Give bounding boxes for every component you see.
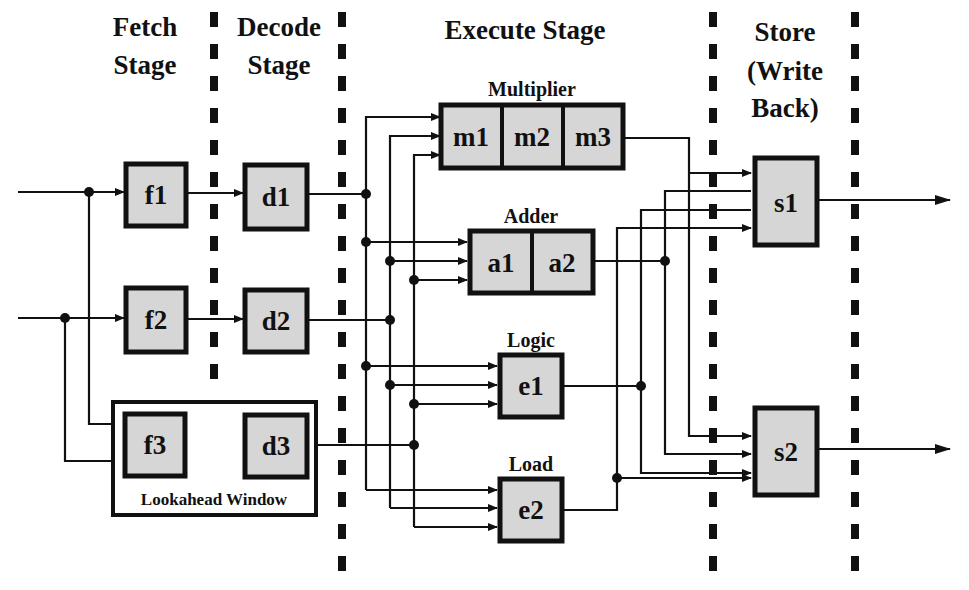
store-stage-title-1: Store [755, 17, 816, 47]
junction-dot [361, 361, 371, 371]
junction-dot [409, 440, 419, 450]
multiplier-stage-m3: m3 [575, 122, 611, 152]
junction-dot [84, 187, 94, 197]
adder-label: Adder [504, 205, 559, 227]
load-label: Load [509, 453, 553, 475]
store-stage-title-3: Back) [751, 93, 819, 123]
multiplier-stage-m1: m1 [453, 122, 489, 152]
a2-bus-vertical [665, 191, 751, 454]
fetch-box-f1-label: f1 [145, 180, 168, 210]
load-stage-e2: e2 [518, 495, 543, 525]
decode-box-d3-label: d3 [262, 431, 291, 461]
multiplier-label: Multiplier [488, 78, 576, 101]
decode-box-d2-label: d2 [262, 306, 291, 336]
fetch-box-f3-label: f3 [144, 430, 167, 460]
junction-dot [636, 381, 646, 391]
pipeline-diagram: Fetch Stage Decode Stage Execute Stage S… [0, 0, 969, 590]
junction-dot [361, 189, 371, 199]
fetch-stage-title-2: Stage [114, 50, 177, 80]
junction-dot [361, 237, 371, 247]
adder-stage-a1: a1 [488, 248, 515, 278]
execute-stage-title: Execute Stage [444, 15, 605, 45]
operand-bus-3 [414, 155, 440, 527]
lookahead-window-label: Lookahead Window [141, 490, 288, 509]
m3-result-bus [625, 138, 751, 436]
branch-wire-1-to-f3 [89, 192, 122, 424]
operand-bus-1 [366, 117, 440, 490]
e1-bus-vertical [641, 210, 751, 473]
junction-dot [409, 399, 419, 409]
decode-box-d1-label: d1 [262, 182, 291, 212]
multiplier-stage-m2: m2 [514, 122, 550, 152]
fetch-stage-title-1: Fetch [113, 12, 177, 42]
junction-dot [385, 256, 395, 266]
store-box-s1-label: s1 [774, 188, 798, 218]
logic-stage-e1: e1 [518, 371, 543, 401]
junction-dot [660, 256, 670, 266]
junction-dot [385, 315, 395, 325]
junction-dot [60, 313, 70, 323]
store-stage-title-2: (Write [747, 56, 823, 86]
logic-label: Logic [507, 329, 555, 352]
junction-dot [612, 473, 622, 483]
junction-dot [385, 380, 395, 390]
decode-stage-title-1: Decode [237, 12, 321, 42]
fetch-box-f2-label: f2 [145, 305, 168, 335]
decode-stage-title-2: Stage [248, 50, 311, 80]
adder-stage-a2: a2 [549, 248, 576, 278]
junction-dot [409, 275, 419, 285]
store-box-s2-label: s2 [774, 437, 798, 467]
